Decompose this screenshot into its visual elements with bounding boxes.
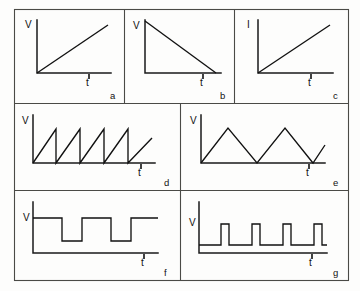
panel-d-x-label: t (138, 167, 141, 178)
panel-f-waveform (33, 218, 158, 241)
figure-canvas: V t a V t b I t c V t (0, 0, 360, 291)
panel-d-axes (33, 115, 155, 163)
panel-c-waveform (258, 25, 330, 73)
panel-b-y-label: V (133, 20, 140, 31)
panel-g: V t g (189, 202, 338, 278)
panel-f-label: f (164, 267, 167, 278)
panel-g-y-label: V (189, 217, 196, 228)
panel-f-axes (33, 202, 158, 253)
panel-g-x-label: t (309, 257, 312, 268)
panel-e-label: e (333, 177, 338, 188)
panel-e-y-label: V (190, 115, 197, 126)
panel-b-waveform (145, 21, 216, 73)
panel-f: V t f (23, 202, 167, 278)
panel-a-waveform (37, 25, 108, 73)
panel-c-label: c (333, 90, 338, 101)
panel-c: I t c (247, 19, 338, 101)
panel-d-label: d (164, 177, 169, 188)
panel-b-label: b (220, 90, 225, 101)
panel-d: V t d (22, 115, 169, 188)
panel-b: V t b (133, 20, 225, 101)
panel-c-x-label: t (308, 77, 311, 88)
panel-a: V t a (25, 19, 116, 101)
panel-a-label: a (110, 90, 116, 101)
panel-e-x-label: t (306, 167, 309, 178)
panel-b-x-label: t (200, 77, 203, 88)
waveform-figure: V t a V t b I t c V t (0, 0, 360, 291)
panel-c-y-label: I (247, 19, 250, 30)
panel-f-x-label: t (141, 257, 144, 268)
panel-d-y-label: V (22, 115, 29, 126)
panel-e-waveform (201, 128, 325, 163)
panel-d-waveform (33, 129, 152, 163)
panel-e: V t e (190, 115, 338, 188)
panel-a-y-label: V (25, 19, 32, 30)
panel-f-y-label: V (23, 212, 30, 223)
panel-a-x-label: t (86, 77, 89, 88)
panel-g-label: g (333, 267, 338, 278)
panel-g-waveform (199, 224, 327, 245)
panel-b-axes (145, 20, 221, 73)
